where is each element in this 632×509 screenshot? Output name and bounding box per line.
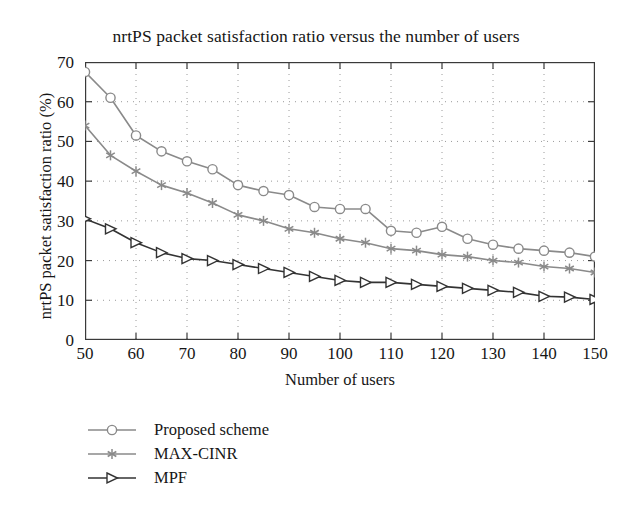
data-point-marker [259,186,268,195]
data-point-marker [131,131,140,140]
plot-area [85,62,595,340]
y-tick-label: 60 [32,94,74,111]
data-point-marker [182,157,191,166]
data-point-marker [208,165,217,174]
data-point-marker [514,244,523,253]
y-tick-label: 30 [32,213,74,230]
legend-marker-circle-icon [86,420,138,440]
chart-figure: nrtPS packet satisfaction ratio versus t… [0,0,632,509]
data-point-marker [85,67,90,76]
data-point-marker [488,285,499,295]
data-point-marker [284,190,293,199]
legend-marker-asterisk-icon [86,444,138,464]
legend-label: MAX-CINR [138,444,237,464]
chart-legend: Proposed schemeMAX-CINRMPF [86,418,416,490]
data-point-marker [131,238,142,248]
data-point-marker [106,224,117,234]
chart-title: nrtPS packet satisfaction ratio versus t… [0,26,632,47]
data-point-marker [412,228,421,237]
data-point-marker [590,294,595,304]
data-point-marker [107,425,116,434]
legend-item-1: MAX-CINR [86,442,416,466]
x-tick-label: 150 [565,345,625,362]
data-point-marker [208,198,217,208]
data-point-marker [488,240,497,249]
y-tick-label: 50 [32,133,74,150]
data-point-marker [386,226,395,235]
data-point-marker [463,234,472,243]
data-point-marker [132,166,141,176]
data-point-marker [437,281,448,291]
legend-item-0: Proposed scheme [86,418,416,442]
data-point-marker [284,267,295,277]
data-point-marker [565,248,574,257]
y-tick-label: 10 [32,292,74,309]
legend-marker-triangle-right-icon [86,468,138,488]
y-tick-label: 40 [32,173,74,190]
data-point-marker [335,204,344,213]
data-point-marker [590,252,595,261]
data-point-marker [565,292,576,302]
data-point-marker [183,188,192,198]
data-point-marker [310,202,319,211]
data-point-marker [208,256,219,266]
data-point-marker [310,271,321,281]
data-point-marker [361,277,372,287]
data-point-marker [437,222,446,231]
data-point-marker [412,279,423,289]
x-axis-label: Number of users [85,370,595,390]
data-point-marker [259,264,270,274]
legend-label: Proposed scheme [138,420,269,440]
plot-canvas [85,62,595,340]
grid-lines [85,62,595,340]
data-point-marker [361,204,370,213]
data-point-marker [539,246,548,255]
data-point-marker [514,287,525,297]
data-point-marker [157,180,166,190]
data-series-layer [85,67,595,304]
data-point-marker [233,181,242,190]
data-point-marker [107,473,118,483]
data-point-marker [157,248,168,258]
data-point-marker [182,254,193,264]
data-point-marker [106,93,115,102]
y-tick-label: 70 [32,54,74,71]
legend-label: MPF [138,468,187,488]
y-tick-label: 20 [32,253,74,270]
data-point-marker [463,283,474,293]
data-point-marker [157,147,166,156]
legend-item-2: MPF [86,466,416,490]
data-point-marker [335,275,346,285]
